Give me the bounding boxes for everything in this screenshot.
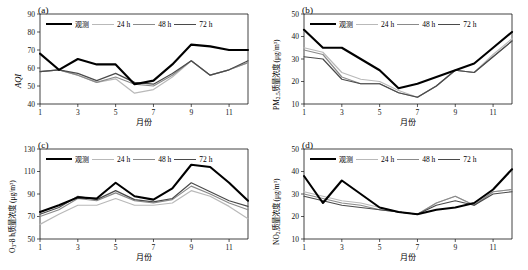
legend-label-h24: 24 h [381, 155, 394, 164]
svg-text:40: 40 [292, 32, 300, 41]
legend-swatch-h24 [92, 24, 114, 25]
legend-label-obs: 观测 [75, 154, 89, 164]
legend-swatch-h48 [133, 24, 155, 25]
legend-item-h48: 48 h [397, 20, 438, 29]
svg-text:60: 60 [28, 64, 36, 73]
legend-label-obs: 观测 [339, 19, 353, 29]
panel-c-x-axis-title: 月份 [40, 251, 248, 262]
legend-label-h48: 48 h [422, 20, 435, 29]
legend-item-obs: 观测 [46, 154, 92, 164]
panel-b-y-unit: (μg/m³) [272, 39, 281, 62]
panel-c-y-sub: 3 [11, 245, 17, 248]
svg-text:80: 80 [28, 28, 36, 37]
legend-item-h24: 24 h [356, 20, 397, 29]
panel-d-legend: 观测24 h48 h72 h [310, 154, 479, 164]
legend-item-h24: 24 h [92, 155, 133, 164]
figure-four-panel-airquality: (a) AQI 4050607080901357911 月份 观测24 h48 … [0, 0, 528, 270]
svg-text:10: 10 [292, 100, 300, 109]
legend-swatch-h72 [174, 24, 196, 25]
legend-swatch-h48 [397, 24, 419, 25]
panel-c-y-unit: (μg/m³) [8, 180, 17, 203]
legend-label-h24: 24 h [117, 20, 130, 29]
legend-swatch-h72 [438, 159, 460, 160]
panel-d-y-axis-title: NO2质量浓度 (μg/m³) [273, 179, 281, 245]
svg-text:50: 50 [292, 10, 300, 19]
legend-item-obs: 观测 [310, 154, 356, 164]
svg-text:30: 30 [292, 55, 300, 64]
panel-b-y-rest: 质量浓度 [272, 64, 281, 92]
panel-c-y-rest: -8 h质量浓度 [8, 205, 17, 245]
panel-a-y-axis-title: AQI [14, 74, 23, 88]
legend-item-h48: 48 h [397, 155, 438, 164]
panel-d-y-unit: (μg/m³) [272, 179, 281, 202]
legend-item-obs: 观测 [46, 19, 92, 29]
panel-b-y-sub: 2.5 [275, 92, 281, 99]
legend-label-h48: 48 h [158, 155, 171, 164]
panel-c: (c) O3-8 h质量浓度 (μg/m³) 50709011013013579… [0, 135, 264, 270]
panel-c-y-axis-title: O3-8 h质量浓度 (μg/m³) [9, 180, 17, 253]
panel-b-y-axis-title: PM2.5质量浓度 (μg/m³) [273, 39, 281, 110]
svg-text:50: 50 [28, 235, 36, 244]
legend-swatch-obs [310, 23, 336, 25]
svg-text:50: 50 [292, 145, 300, 154]
panel-b-x-axis-title: 月份 [304, 116, 512, 127]
legend-swatch-obs [46, 158, 72, 160]
legend-label-h24: 24 h [117, 155, 130, 164]
legend-label-obs: 观测 [339, 154, 353, 164]
legend-label-h48: 48 h [422, 155, 435, 164]
panel-d-x-axis-title: 月份 [304, 251, 512, 262]
legend-item-h72: 72 h [438, 155, 479, 164]
legend-item-h48: 48 h [133, 155, 174, 164]
svg-text:20: 20 [292, 77, 300, 86]
legend-item-h48: 48 h [133, 20, 174, 29]
legend-swatch-h72 [438, 24, 460, 25]
legend-swatch-obs [46, 23, 72, 25]
legend-swatch-obs [310, 158, 336, 160]
legend-item-h24: 24 h [92, 20, 133, 29]
svg-text:90: 90 [28, 190, 36, 199]
svg-text:70: 70 [28, 212, 36, 221]
panel-a-legend: 观测24 h48 h72 h [46, 19, 215, 29]
panel-d-y-rest: 质量浓度 [272, 203, 281, 231]
legend-swatch-h24 [356, 159, 378, 160]
svg-text:40: 40 [292, 167, 300, 176]
legend-swatch-h24 [92, 159, 114, 160]
svg-text:70: 70 [28, 46, 36, 55]
svg-text:110: 110 [24, 167, 35, 176]
legend-label-obs: 观测 [75, 19, 89, 29]
panel-b-y-main: PM [272, 99, 281, 110]
panel-c-y-main: O [8, 248, 17, 253]
svg-text:20: 20 [292, 212, 300, 221]
svg-text:130: 130 [24, 145, 36, 154]
legend-label-h48: 48 h [158, 20, 171, 29]
svg-text:90: 90 [28, 10, 36, 19]
legend-label-h72: 72 h [199, 20, 212, 29]
legend-item-h72: 72 h [438, 20, 479, 29]
panel-b-legend: 观测24 h48 h72 h [310, 19, 479, 29]
legend-label-h72: 72 h [463, 155, 476, 164]
legend-swatch-h72 [174, 159, 196, 160]
legend-label-h72: 72 h [199, 155, 212, 164]
legend-swatch-h48 [133, 159, 155, 160]
svg-text:40: 40 [28, 100, 36, 109]
svg-text:50: 50 [28, 82, 36, 91]
legend-item-h72: 72 h [174, 155, 215, 164]
legend-swatch-h24 [356, 24, 378, 25]
panel-a: (a) AQI 4050607080901357911 月份 观测24 h48 … [0, 0, 264, 135]
panel-d: (d) NO2质量浓度 (μg/m³) 10203040501357911 月份… [264, 135, 528, 270]
panel-c-legend: 观测24 h48 h72 h [46, 154, 215, 164]
panel-d-y-sub: 2 [275, 231, 281, 234]
svg-text:30: 30 [292, 190, 300, 199]
legend-label-h72: 72 h [463, 20, 476, 29]
legend-item-obs: 观测 [310, 19, 356, 29]
legend-label-h24: 24 h [381, 20, 394, 29]
legend-item-h24: 24 h [356, 155, 397, 164]
panel-a-x-axis-title: 月份 [40, 116, 248, 127]
panel-b: (b) PM2.5质量浓度 (μg/m³) 10203040501357911 … [264, 0, 528, 135]
legend-swatch-h48 [397, 159, 419, 160]
panel-d-y-main: NO [272, 234, 281, 245]
legend-item-h72: 72 h [174, 20, 215, 29]
svg-text:10: 10 [292, 235, 300, 244]
